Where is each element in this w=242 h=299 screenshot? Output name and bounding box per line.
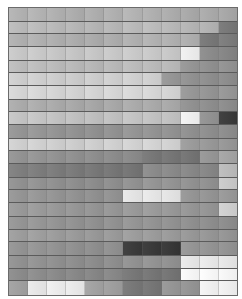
heatmap-cell	[162, 230, 181, 242]
heatmap-cell	[181, 34, 200, 46]
heatmap-cell	[9, 112, 28, 124]
heatmap-cell	[28, 73, 47, 85]
heatmap-cell	[9, 256, 28, 268]
heatmap-cell	[219, 100, 237, 112]
heatmap-cell	[9, 100, 28, 112]
heatmap-cell	[9, 242, 28, 255]
heatmap-cell	[181, 125, 200, 138]
heatmap-cell	[47, 139, 66, 151]
heatmap-cell	[123, 34, 142, 46]
heatmap-cell	[9, 73, 28, 85]
heatmap-cell	[200, 230, 219, 242]
heatmap-cell	[104, 8, 123, 21]
heatmap-cell	[9, 86, 28, 99]
heatmap-cell	[85, 61, 104, 73]
heatmap-cell	[123, 178, 142, 190]
heatmap-cell	[200, 269, 219, 281]
heatmap-cell	[219, 217, 237, 229]
heatmap-cell	[66, 217, 85, 229]
heatmap-cell	[9, 178, 28, 190]
heatmap-cell	[123, 203, 142, 216]
heatmap-cell	[104, 203, 123, 216]
heatmap-cell	[143, 73, 162, 85]
heatmap-cell	[104, 86, 123, 99]
heatmap-cell	[123, 61, 142, 73]
heatmap-cell	[181, 8, 200, 21]
heatmap-cell	[104, 217, 123, 229]
heatmap-cell	[47, 8, 66, 21]
heatmap-cell	[181, 178, 200, 190]
heatmap-cell	[200, 8, 219, 21]
heatmap-cell	[219, 86, 237, 99]
heatmap-cell	[66, 242, 85, 255]
heatmap-cell	[162, 73, 181, 85]
heatmap-cell	[219, 164, 237, 177]
heatmap-cell	[47, 86, 66, 99]
heatmap-row	[9, 47, 237, 61]
heatmap-cell	[200, 256, 219, 268]
heatmap-cell	[28, 34, 47, 46]
heatmap-row	[9, 86, 237, 100]
heatmap-figure-root	[0, 0, 242, 299]
heatmap-cell	[143, 34, 162, 46]
heatmap-cell	[9, 190, 28, 202]
heatmap-cell	[181, 139, 200, 151]
heatmap-cell	[66, 203, 85, 216]
heatmap-row	[9, 151, 237, 164]
heatmap-cell	[85, 8, 104, 21]
heatmap-cell	[123, 190, 142, 202]
heatmap-cell	[66, 230, 85, 242]
heatmap-cell	[143, 256, 162, 268]
heatmap-cell	[47, 242, 66, 255]
heatmap-cell	[123, 281, 142, 295]
heatmap-cell	[85, 230, 104, 242]
heatmap-cell	[219, 178, 237, 190]
heatmap-cell	[85, 178, 104, 190]
heatmap-cell	[66, 22, 85, 34]
heatmap-cell	[143, 190, 162, 202]
heatmap-cell	[28, 178, 47, 190]
heatmap-cell	[47, 190, 66, 202]
heatmap-cell	[9, 217, 28, 229]
heatmap-cell	[9, 269, 28, 281]
heatmap-cell	[9, 164, 28, 177]
heatmap-cell	[200, 125, 219, 138]
heatmap-cell	[9, 47, 28, 60]
heatmap-cell	[143, 8, 162, 21]
heatmap-cell	[9, 139, 28, 151]
heatmap-cell	[181, 47, 200, 60]
heatmap-cell	[143, 281, 162, 295]
heatmap-cell	[85, 190, 104, 202]
heatmap-cell	[219, 151, 237, 163]
heatmap-cell	[47, 47, 66, 60]
heatmap-cell	[28, 203, 47, 216]
heatmap-cell	[181, 281, 200, 295]
heatmap-cell	[123, 47, 142, 60]
heatmap-row	[9, 100, 237, 113]
heatmap-cell	[123, 139, 142, 151]
heatmap-cell	[200, 190, 219, 202]
heatmap-cell	[28, 100, 47, 112]
heatmap-cell	[123, 242, 142, 255]
heatmap-cell	[219, 34, 237, 46]
heatmap-cell	[66, 47, 85, 60]
heatmap-cell	[28, 256, 47, 268]
heatmap-cell	[200, 100, 219, 112]
heatmap-cell	[85, 256, 104, 268]
heatmap-cell	[28, 61, 47, 73]
heatmap-row	[9, 139, 237, 152]
heatmap-row	[9, 269, 237, 282]
heatmap-cell	[66, 100, 85, 112]
heatmap-cell	[200, 203, 219, 216]
heatmap-cell	[47, 230, 66, 242]
heatmap-cell	[181, 190, 200, 202]
heatmap-cell	[104, 47, 123, 60]
heatmap-cell	[200, 242, 219, 255]
heatmap-cell	[9, 151, 28, 163]
heatmap-cell	[85, 151, 104, 163]
heatmap-row	[9, 22, 237, 35]
heatmap-cell	[47, 178, 66, 190]
heatmap-cell	[219, 190, 237, 202]
heatmap-cell	[85, 281, 104, 295]
heatmap-cell	[219, 125, 237, 138]
